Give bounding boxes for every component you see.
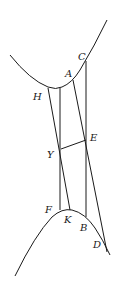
line-YE xyxy=(61,140,86,149)
diagram-canvas: C A H E Y F K B D xyxy=(0,0,118,287)
label-A: A xyxy=(64,68,72,79)
label-E: E xyxy=(89,132,98,143)
label-Y: Y xyxy=(47,149,55,160)
line-AD xyxy=(73,80,107,252)
label-D: D xyxy=(92,239,101,250)
label-K: K xyxy=(63,214,72,225)
upper-curve xyxy=(10,20,107,89)
label-C: C xyxy=(78,51,86,62)
label-F: F xyxy=(44,204,53,215)
label-B: B xyxy=(79,222,87,233)
label-H: H xyxy=(32,91,42,102)
